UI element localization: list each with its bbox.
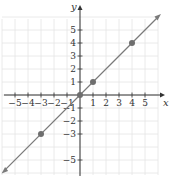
x-tick-label: 4 (129, 98, 135, 108)
x-tick-label: 5 (142, 98, 148, 108)
data-point (90, 79, 96, 85)
data-point (38, 131, 44, 137)
x-tick-label: 1 (90, 98, 96, 108)
y-tick-label: −1 (63, 103, 76, 113)
y-tick-label: 3 (70, 51, 76, 61)
x-axis-label: x (163, 97, 169, 108)
y-tick-label: 2 (70, 64, 76, 74)
data-point (77, 92, 83, 98)
coordinate-plane: xy−5−4−3−2−112345−5−3−2−112345 (0, 0, 169, 179)
y-axis-arrow-icon (78, 5, 83, 10)
y-axis-label: y (70, 1, 77, 12)
y-tick-label: 1 (70, 77, 76, 87)
data-point (129, 40, 135, 46)
x-tick-label: 3 (116, 98, 122, 108)
y-tick-label: 4 (70, 38, 76, 48)
y-tick-label: −3 (63, 129, 77, 139)
y-tick-label: −5 (63, 155, 77, 165)
x-tick-label: −5 (8, 98, 22, 108)
x-tick-label: −2 (47, 98, 60, 108)
x-tick-label: −4 (21, 98, 35, 108)
y-tick-label: −2 (63, 116, 76, 126)
x-tick-label: 2 (103, 98, 109, 108)
y-tick-label: 5 (70, 25, 76, 35)
x-tick-label: −3 (34, 98, 48, 108)
line-y-equals-x (2, 14, 161, 173)
